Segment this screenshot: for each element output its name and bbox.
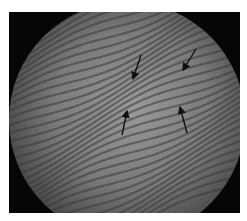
fringe-image-frame: [9, 12, 240, 213]
fringe-image: [9, 12, 240, 213]
